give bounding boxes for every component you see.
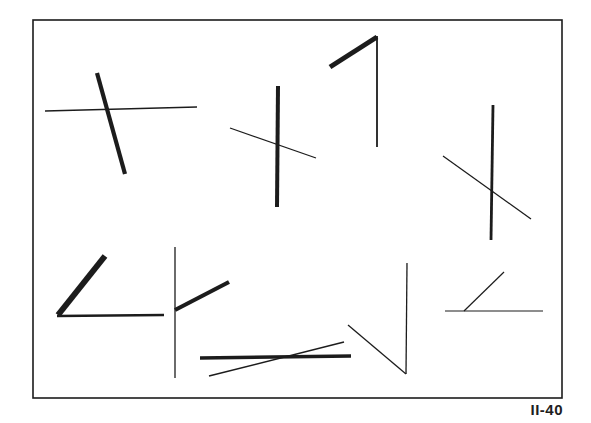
thin-line-segment — [57, 315, 164, 316]
thick-line-segment — [58, 256, 105, 315]
thick-line-segment — [97, 73, 125, 174]
thin-line-segment — [45, 107, 197, 111]
figure-3-corner — [330, 36, 377, 147]
figure-4-crossing — [443, 105, 531, 240]
figure-5-angle — [57, 256, 164, 316]
line-figures-group — [45, 36, 543, 378]
thin-line-segment — [406, 263, 407, 374]
figure-7-crossing — [200, 342, 351, 376]
plate-frame — [33, 20, 562, 398]
figure-2-crossing — [230, 86, 316, 207]
thick-line-segment — [330, 37, 377, 67]
figure-8-v-angle — [348, 263, 407, 374]
thin-line-segment — [230, 128, 316, 158]
figure-plate — [0, 0, 591, 423]
thin-line-segment — [443, 156, 531, 219]
thick-line-segment — [491, 105, 493, 240]
figure-9-angle — [445, 272, 543, 311]
figure-1-crossing — [45, 73, 197, 174]
thin-line-segment — [464, 272, 504, 311]
thick-line-segment — [200, 356, 351, 358]
thick-line-segment — [277, 86, 278, 207]
thick-line-segment — [175, 282, 229, 310]
thin-line-segment — [348, 325, 406, 374]
plate-number-label: II-40 — [530, 401, 563, 418]
